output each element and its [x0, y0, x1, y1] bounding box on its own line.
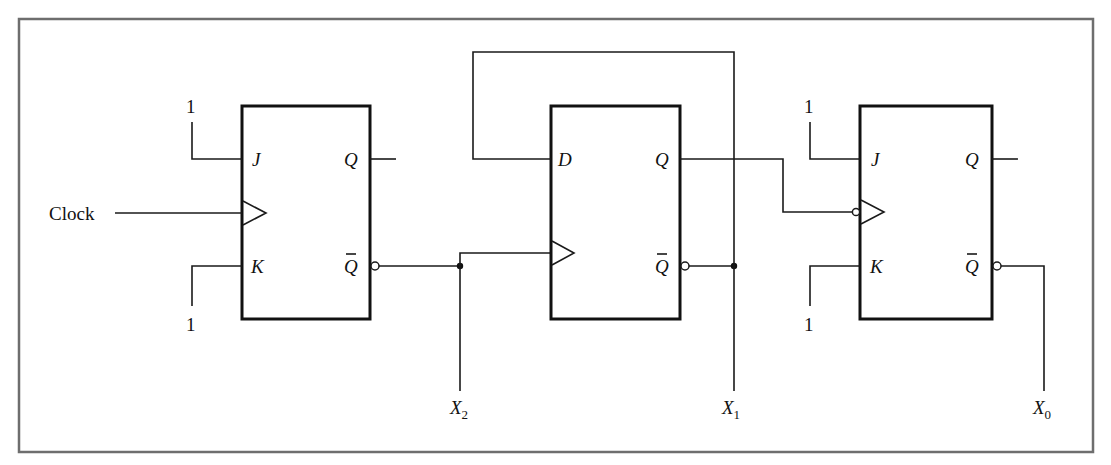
- ff3-body: [860, 106, 992, 319]
- ff1-qbar-pin-label: Q: [344, 256, 358, 277]
- x0-output-label: X0: [1032, 397, 1051, 422]
- ff3-q-pin-label: Q: [965, 149, 979, 170]
- flip-flop-3-jk: 1 J 1 K Q Q: [804, 96, 1018, 335]
- ff3-qbar-pin-label: Q: [965, 256, 979, 277]
- ff2-d-pin-label: D: [557, 149, 572, 170]
- ff1-k-wire: [192, 266, 242, 306]
- ff1-qbar-inversion-bubble-icon: [371, 262, 379, 270]
- ff3-j-wire: [810, 122, 860, 159]
- ff2-body: [551, 106, 680, 319]
- ff1-k-const-label: 1: [186, 314, 196, 335]
- flip-flop-1-jk: 1 J Clock 1 K Q Q: [49, 96, 396, 335]
- ff2-qbar-pin-label: Q: [655, 256, 669, 277]
- ff3-qbar-inversion-bubble-icon: [993, 262, 1001, 270]
- ff2-clock-wire: [460, 253, 551, 266]
- ff1-body: [242, 106, 370, 319]
- ff3-k-wire: [810, 266, 860, 306]
- ff2-qbar-inversion-bubble-icon: [681, 262, 689, 270]
- counter-circuit-diagram: 1 J Clock 1 K Q Q X2 D Q Q X1: [0, 0, 1111, 465]
- flip-flop-2-d: D Q Q: [551, 106, 689, 319]
- ff3-k-const-label: 1: [804, 314, 814, 335]
- ff1-k-pin-label: K: [250, 256, 265, 277]
- ff3-k-pin-label: K: [869, 256, 884, 277]
- x0-output-wire: [1001, 266, 1044, 391]
- ff2-q-to-ff3-clock-wire: [680, 159, 855, 212]
- ff3-j-const-label: 1: [804, 96, 814, 117]
- ff2-q-pin-label: Q: [655, 149, 669, 170]
- x1-output-label: X1: [721, 397, 740, 422]
- x2-output-label: X2: [449, 397, 468, 422]
- ff1-j-wire: [192, 122, 242, 159]
- ff1-j-const-label: 1: [186, 96, 196, 117]
- ff3-clock-inversion-bubble-icon: [852, 208, 859, 215]
- clock-input-label: Clock: [49, 203, 95, 224]
- ff1-q-pin-label: Q: [344, 149, 358, 170]
